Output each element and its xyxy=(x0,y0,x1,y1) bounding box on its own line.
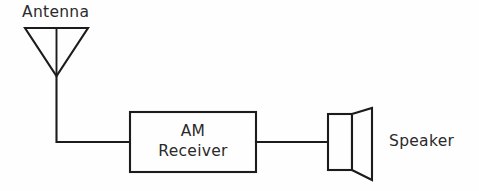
receiver-block-label: AM Receiver xyxy=(130,112,256,172)
antenna-label: Antenna xyxy=(22,3,89,21)
receiver-label-line2: Receiver xyxy=(158,142,227,162)
receiver-label-line1: AM xyxy=(181,122,206,142)
antenna-icon xyxy=(25,28,88,76)
speaker-icon xyxy=(328,108,372,180)
wire-antenna-to-receiver xyxy=(57,76,131,142)
speaker-label: Speaker xyxy=(389,132,454,150)
block-diagram: Antenna AM Receiver Speaker xyxy=(0,0,479,191)
